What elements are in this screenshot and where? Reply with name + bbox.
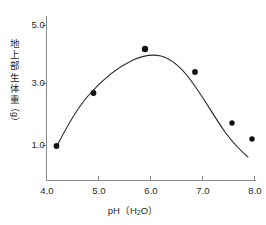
x-tick-label-6: 6.0 <box>144 186 158 196</box>
data-point-ph-6-2 <box>142 46 148 52</box>
data-point-ph-7-2 <box>192 69 198 75</box>
x-tick-label-8: 8.0 <box>248 186 262 196</box>
chart-figure: 5.0 3.0 1.0 4.0 5.0 6.0 7.0 8.0 pH（H2O） … <box>0 0 266 225</box>
x-tick-marks <box>47 176 255 181</box>
y-axis-title-unit: （g） <box>9 103 20 120</box>
y-tick-label-3: 3.0 <box>31 78 45 88</box>
y-tick-label-5: 5.0 <box>31 20 45 30</box>
y-axis-title-char-1: 上 <box>6 49 23 60</box>
y-tick-label-1: 1.0 <box>31 140 45 150</box>
data-point-ph-5-1 <box>91 90 97 96</box>
fitted-curve <box>57 55 248 157</box>
x-axis-title-subscript: 2 <box>137 209 141 216</box>
x-tick-label-5: 5.0 <box>92 186 106 196</box>
data-point-ph-8-0 <box>229 120 234 125</box>
x-tick-label-7: 7.0 <box>196 186 210 196</box>
y-axis-title-char-3: 生 <box>6 72 23 83</box>
x-axis-title-paren-open: （H <box>120 205 137 216</box>
y-axis-title: 地 上 部 生 体 重 （g） <box>6 38 23 117</box>
x-axis-title: pH（H2O） <box>0 203 266 217</box>
x-tick-label-4: 4.0 <box>40 186 54 196</box>
y-axis-title-char-0: 地 <box>6 38 23 49</box>
data-point-ph-8-4 <box>249 136 254 141</box>
data-point-ph-4-2 <box>54 143 60 149</box>
x-axis-title-prefix: pH <box>108 205 120 216</box>
data-points <box>54 46 255 149</box>
x-axis-title-paren-close: O） <box>141 205 158 216</box>
y-axis-title-char-2: 部 <box>6 60 23 71</box>
y-axis-title-char-4: 体 <box>6 83 23 94</box>
